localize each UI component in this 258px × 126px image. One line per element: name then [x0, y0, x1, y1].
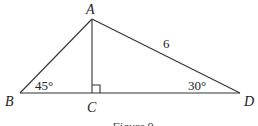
angle-label-B: 45° — [35, 78, 53, 93]
segment-AB — [20, 19, 92, 93]
vertex-label-A: A — [85, 2, 95, 17]
triangle-diagram: A B C D 6 45° 30° Figure 9 — [0, 0, 258, 126]
angle-label-D: 30° — [188, 78, 206, 93]
side-label-AD: 6 — [163, 36, 170, 51]
segment-AD — [92, 19, 240, 93]
vertex-label-C: C — [87, 100, 97, 115]
figure-caption: Figure 9 — [111, 120, 153, 126]
vertex-label-B: B — [5, 94, 14, 109]
vertex-label-D: D — [243, 94, 254, 109]
right-angle-marker — [92, 85, 100, 93]
